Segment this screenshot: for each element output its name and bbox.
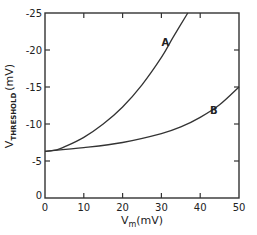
- x-tick-label: 30: [155, 202, 168, 213]
- y-tick-label: 0: [36, 190, 42, 201]
- y-tick-label: -5: [32, 156, 42, 167]
- y-tick-label: -25: [26, 8, 42, 19]
- y-tick-label: -10: [26, 119, 42, 130]
- y-axis-label: VTHRESHOLD(mV): [3, 64, 18, 148]
- y-tick-label: -20: [26, 45, 42, 56]
- x-tick-label: 0: [42, 202, 48, 213]
- curve-a: [45, 13, 188, 151]
- x-axis-label: Vm(mV): [121, 214, 163, 229]
- y-tick-label: -15: [26, 82, 42, 93]
- data-series: AB: [45, 13, 239, 151]
- curve-label-a: A: [161, 37, 169, 48]
- x-tick-label: 40: [194, 202, 207, 213]
- x-tick-label: 20: [116, 202, 129, 213]
- curve-label-b: B: [210, 105, 218, 116]
- threshold-voltage-chart: 010203040500-5-10-15-20-25 AB Vm(mV) VTH…: [0, 0, 257, 235]
- chart-canvas: 010203040500-5-10-15-20-25 AB Vm(mV) VTH…: [0, 0, 257, 235]
- x-tick-label: 50: [233, 202, 246, 213]
- x-tick-label: 10: [77, 202, 90, 213]
